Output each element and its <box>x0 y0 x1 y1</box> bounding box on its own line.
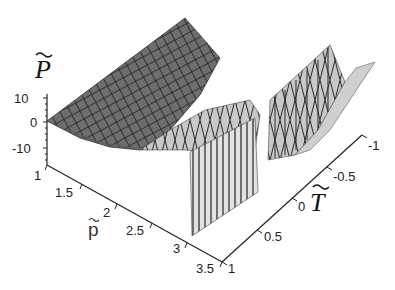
z-tick-label: 0 <box>30 115 37 130</box>
surface-plot: 10 0 -10 1 1.5 2 2.5 3 3.5 1 0.5 0 -0.5 … <box>0 0 395 290</box>
z-tick-label: -10 <box>12 141 31 156</box>
svg-text:T: T <box>310 188 326 217</box>
x-tick-label: 3 <box>173 241 180 256</box>
x-tick-label: 2.5 <box>126 223 144 238</box>
y-axis-title: T <box>310 185 329 217</box>
surface-right-fragment <box>268 45 375 160</box>
x-tick-label: 3.5 <box>196 261 214 276</box>
y-tick-label: -1 <box>368 138 380 153</box>
z-axis-title: P <box>34 53 52 84</box>
z-tick-label: 10 <box>14 91 28 106</box>
x-tick-label: 1 <box>34 168 41 183</box>
x-axis-title: p <box>88 219 99 241</box>
y-tick-label: 0 <box>298 199 305 214</box>
y-tick-label: 1 <box>228 261 235 276</box>
x-tick-labels: 1 1.5 2 2.5 3 3.5 <box>34 168 214 276</box>
svg-text:p: p <box>88 219 99 240</box>
x-tick-label: 2 <box>103 205 110 220</box>
x-tick-label: 1.5 <box>55 185 73 200</box>
y-tick-label: 0.5 <box>264 229 282 244</box>
z-tick-labels: 10 0 -10 <box>12 91 37 156</box>
svg-text:P: P <box>34 55 51 84</box>
y-tick-label: -0.5 <box>333 169 355 184</box>
